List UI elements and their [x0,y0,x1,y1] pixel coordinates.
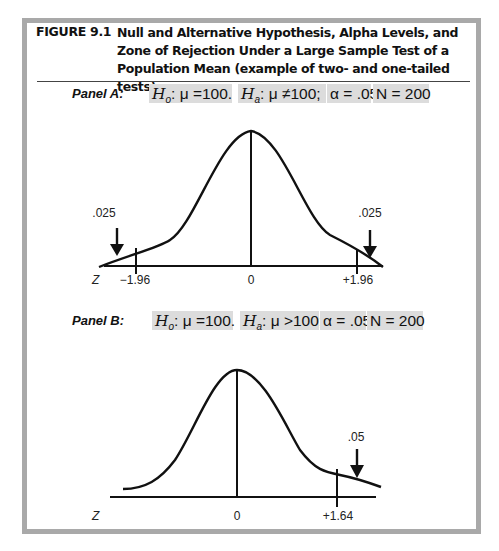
panel-b-tick-label-zero: 0 [234,509,241,523]
panel-a-right-arrowhead-icon [363,246,377,258]
panel-a-left-tail-label: .025 [92,206,116,220]
panel-b-tail-label: .05 [348,430,365,444]
panel-a-chart [99,131,383,274]
panel-a-right-tail-label: .025 [358,206,382,220]
panel-a-tick-label-left: −1.96 [120,273,151,287]
panel-a-z-label: Z [91,273,100,287]
panel-b-arrowhead-icon [350,465,364,478]
panel-b-normal-curve [123,370,381,489]
panel-b-tick-label-right: +1.64 [323,509,354,523]
panel-a-tick-label-right: +1.96 [343,273,374,287]
panel-b-chart [110,370,381,507]
distribution-curves: .025 .025 Z −1.96 0 +1.96 .05 Z 0 +1.64 [0,0,499,551]
panel-a-tick-label-zero: 0 [248,273,255,287]
panel-b-z-label: Z [91,509,100,523]
panel-a-left-arrowhead-icon [110,244,124,256]
panel-a-normal-curve [99,131,383,267]
